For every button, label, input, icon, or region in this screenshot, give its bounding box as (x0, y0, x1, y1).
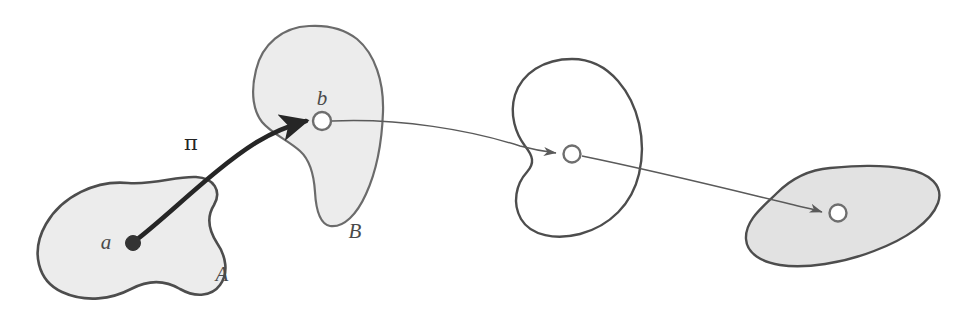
point-d-marker[interactable] (830, 205, 847, 222)
figure-canvas: A B a b π (0, 0, 964, 320)
label-map-pi: π (184, 131, 198, 155)
point-group (126, 112, 847, 251)
label-set-a: A (214, 262, 229, 286)
arrow-group (135, 121, 822, 241)
diagram-svg: A B a b π (0, 0, 964, 320)
point-b-marker[interactable] (313, 112, 331, 130)
point-a-marker[interactable] (126, 236, 141, 251)
label-point-b: b (317, 86, 328, 110)
label-set-b: B (349, 219, 362, 243)
blob-group (38, 26, 940, 299)
label-point-a: a (101, 230, 112, 254)
point-c-marker[interactable] (564, 146, 581, 163)
